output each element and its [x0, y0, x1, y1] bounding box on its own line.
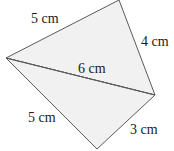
label-diagonal: 6 cm [78, 61, 106, 76]
quadrilateral-diagram: 5 cm 4 cm 6 cm 5 cm 3 cm [0, 0, 174, 151]
label-top-right-side: 4 cm [141, 34, 169, 49]
label-bottom-left-side: 5 cm [28, 110, 56, 125]
label-bottom-right-side: 3 cm [130, 122, 158, 137]
label-top-left-side: 5 cm [31, 11, 59, 26]
